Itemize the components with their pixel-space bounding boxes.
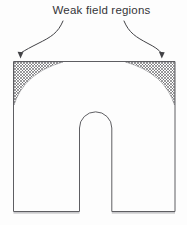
- left-leader-arrow: [18, 21, 63, 59]
- core-outline: [14, 62, 176, 212]
- figure: Weak field regions: [0, 0, 187, 225]
- magnet-cross-section-diagram: [0, 0, 187, 225]
- right-arrowhead-icon: [159, 52, 165, 59]
- weak-field-region-left: [14, 62, 63, 105]
- weak-field-region-right: [126, 62, 175, 105]
- right-leader-arrow: [124, 21, 165, 59]
- right-arrow-line: [124, 21, 161, 53]
- left-arrowhead-icon: [18, 52, 24, 59]
- left-arrow-line: [22, 21, 64, 53]
